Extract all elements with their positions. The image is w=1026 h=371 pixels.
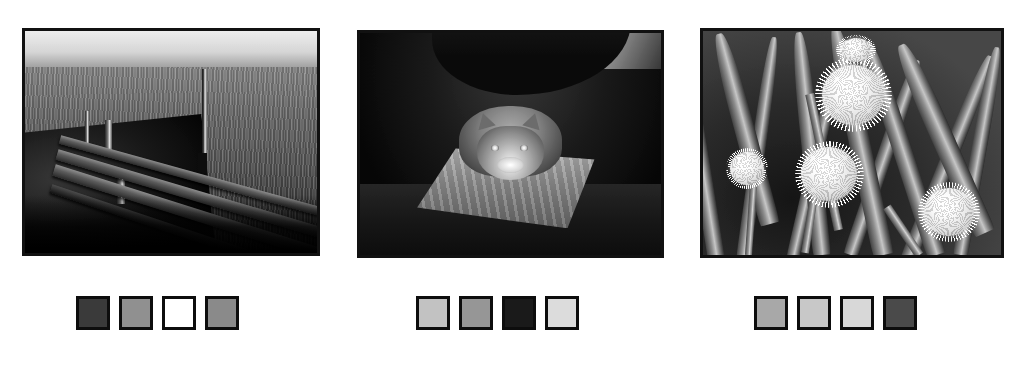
swatch-3[interactable] bbox=[162, 296, 196, 330]
bloom-texture bbox=[822, 65, 884, 125]
swatch-color-fill bbox=[208, 299, 236, 327]
sky-region bbox=[25, 31, 317, 69]
swatch-4[interactable] bbox=[545, 296, 579, 330]
swatch-color-fill bbox=[843, 299, 871, 327]
allium-bloom-mid bbox=[801, 147, 857, 201]
swatch-color-fill bbox=[505, 299, 533, 327]
swatch-color-fill bbox=[548, 299, 576, 327]
swatch-3[interactable] bbox=[502, 296, 536, 330]
swatch-2[interactable] bbox=[797, 296, 831, 330]
swatch-2[interactable] bbox=[119, 296, 153, 330]
swatch-color-fill bbox=[419, 299, 447, 327]
swatch-4[interactable] bbox=[205, 296, 239, 330]
swatch-color-fill bbox=[800, 299, 828, 327]
bloom-texture bbox=[840, 38, 872, 62]
allium-bloom-small-left bbox=[730, 152, 764, 185]
swatch-3[interactable] bbox=[840, 296, 874, 330]
swatch-color-fill bbox=[79, 299, 107, 327]
swatch-1[interactable] bbox=[76, 296, 110, 330]
bloom-texture bbox=[801, 147, 857, 201]
swatch-color-fill bbox=[886, 299, 914, 327]
swatch-2[interactable] bbox=[459, 296, 493, 330]
photo-content-cat bbox=[360, 33, 661, 255]
wooden-jetty-over-water-photo[interactable] bbox=[22, 28, 320, 256]
swatch-color-fill bbox=[462, 299, 490, 327]
palette-row-alliums bbox=[754, 296, 917, 330]
cat-on-cushion-photo[interactable] bbox=[357, 30, 664, 258]
foreground-darkness bbox=[25, 195, 317, 253]
allium-bloom-large bbox=[822, 65, 884, 125]
bloom-texture bbox=[924, 188, 974, 236]
page-root bbox=[0, 0, 1026, 371]
cat-muzzle bbox=[497, 157, 524, 173]
photo-content-jetty bbox=[25, 31, 317, 253]
swatch-color-fill bbox=[122, 299, 150, 327]
palette-row-jetty bbox=[76, 296, 239, 330]
swatch-4[interactable] bbox=[883, 296, 917, 330]
allium-bloom-lower-right bbox=[924, 188, 974, 236]
palette-row-cat bbox=[416, 296, 579, 330]
swatch-color-fill bbox=[165, 299, 193, 327]
allium-bloom-top bbox=[840, 38, 872, 62]
photo-content-alliums bbox=[703, 31, 1001, 255]
swatch-1[interactable] bbox=[416, 296, 450, 330]
cat-eye-right bbox=[520, 145, 528, 151]
swatch-color-fill bbox=[757, 299, 785, 327]
swatch-1[interactable] bbox=[754, 296, 788, 330]
bloom-texture bbox=[730, 152, 764, 185]
allium-onion-flowers-photo[interactable] bbox=[700, 28, 1004, 258]
